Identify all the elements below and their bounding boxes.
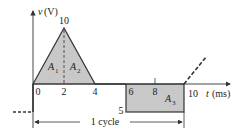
area-a3-sub: 3 — [172, 99, 176, 107]
area-a3-label: A — [164, 93, 172, 104]
y-axis-unit: (V) — [44, 6, 58, 18]
tick-label-neg5: 5 — [119, 105, 124, 116]
tick-label-10: 10 — [188, 88, 198, 99]
next-cycle-dashed — [184, 57, 206, 84]
tick-label-0: 0 — [36, 86, 41, 97]
cycle-label: 1 cycle — [91, 116, 120, 127]
tick-label-8: 8 — [153, 86, 158, 97]
waveform-diagram: 1 cycle v (V) t (ms) 10 0 2 4 6 8 10 5 A… — [0, 0, 242, 139]
area-a2-sub: 2 — [77, 67, 81, 75]
area-a1-label: A — [47, 61, 55, 72]
area-a1-sub: 1 — [55, 67, 59, 75]
tick-label-2: 2 — [62, 86, 67, 97]
tick-label-4: 4 — [93, 86, 98, 97]
t-axis-var: t — [206, 88, 209, 99]
tick-label-peak: 10 — [59, 15, 69, 26]
tick-label-6: 6 — [129, 86, 134, 97]
t-axis-unit: (ms) — [212, 88, 230, 100]
area-a2-label: A — [69, 61, 77, 72]
y-axis-var: v — [38, 6, 43, 17]
